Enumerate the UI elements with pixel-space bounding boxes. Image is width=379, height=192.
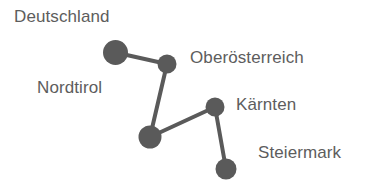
graph-node[interactable] [216, 159, 237, 180]
graph-canvas: DeutschlandOberösterreichNordtirolKärnte… [0, 0, 379, 192]
graph-node[interactable] [158, 55, 177, 74]
node-label-deutschland: Deutschland [14, 8, 110, 25]
node-label-kaernten: Kärnten [236, 96, 296, 113]
graph-node[interactable] [103, 40, 128, 65]
node-label-oberoesterreich: Oberösterreich [190, 49, 304, 66]
graph-node[interactable] [139, 126, 162, 149]
graph-node[interactable] [206, 98, 225, 117]
node-label-steiermark: Steiermark [258, 144, 341, 161]
node-label-nordtirol: Nordtirol [37, 79, 102, 96]
